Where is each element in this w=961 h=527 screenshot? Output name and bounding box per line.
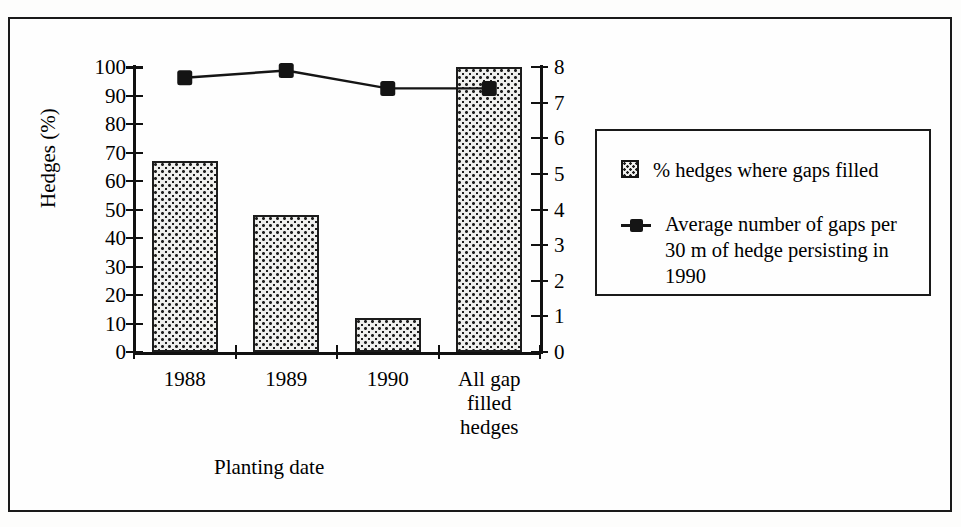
y-tick-label-right: 4 (554, 199, 594, 220)
line-marker-square (380, 81, 395, 96)
chart-figure: Hedges (%) Planting date 010203040506070… (0, 0, 961, 527)
stipple-patch-icon (621, 160, 639, 178)
y-tick-label-right: 6 (554, 128, 594, 149)
legend-label-0: % hedges where gaps filled (653, 157, 878, 183)
line-series-gaps-per-30m (134, 67, 540, 352)
plot-area: 0102030405060708090100 012345678 1988198… (134, 67, 540, 352)
y-tick-label-left: 10 (66, 313, 126, 334)
line-marker-square (279, 63, 294, 78)
x-category-label: 1988 (134, 367, 236, 391)
y-tick-label-left: 30 (66, 256, 126, 277)
x-category-label: All gap filled hedges (439, 367, 541, 439)
y-tick-label-right: 1 (554, 306, 594, 327)
y-tick-label-right: 3 (554, 235, 594, 256)
legend-square-marker-icon (630, 219, 643, 232)
y-tick-label-right: 5 (554, 163, 594, 184)
y-tick-label-left: 20 (66, 285, 126, 306)
line-path (185, 71, 490, 89)
x-axis-title: Planting date (214, 455, 324, 480)
x-category-label: 1989 (236, 367, 338, 391)
x-category-label: 1990 (337, 367, 439, 391)
y-tick-label-left: 70 (66, 142, 126, 163)
y-tick-label-left: 50 (66, 199, 126, 220)
y-axis-title-left: Hedges (%) (36, 108, 61, 208)
y-tick-label-left: 100 (66, 57, 126, 78)
y-tick-label-right: 8 (554, 57, 594, 78)
y-tick-label-right: 2 (554, 270, 594, 291)
legend-entry-hedges-gaps-filled: % hedges where gaps filled (621, 157, 878, 183)
line-marker-square (177, 70, 192, 85)
y-tick-label-left: 60 (66, 171, 126, 192)
legend: % hedges where gaps filled Average numbe… (595, 129, 931, 296)
y-tick-label-left: 0 (66, 342, 126, 363)
line-marker-square (482, 81, 497, 96)
legend-entry-average-gaps: Average number of gaps per 30 m of hedge… (621, 211, 897, 290)
line-marker-icon (621, 216, 651, 234)
y-tick-label-left: 90 (66, 85, 126, 106)
legend-label-1: Average number of gaps per 30 m of hedge… (665, 211, 897, 290)
y-tick-label-left: 80 (66, 114, 126, 135)
y-tick-label-left: 40 (66, 228, 126, 249)
y-tick-label-right: 7 (554, 92, 594, 113)
y-tick-label-right: 0 (554, 342, 594, 363)
